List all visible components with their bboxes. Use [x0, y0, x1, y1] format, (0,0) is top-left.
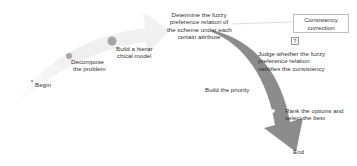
- step-dot-rank: [271, 109, 275, 113]
- step-dot-judge-2: [250, 70, 253, 73]
- label-decompose: Decompose the problem: [71, 58, 106, 73]
- label-end: End: [293, 148, 304, 155]
- label-priority: Build the priority: [205, 86, 249, 93]
- label-fuzzy: Determine the fuzzy preference relation …: [167, 11, 231, 41]
- step-dot-priority: [260, 86, 264, 90]
- label-judge: Judge whether the fuzzy preference relat…: [258, 50, 325, 72]
- decision-marker-icon: ?: [291, 37, 299, 45]
- label-begin: Begin: [35, 81, 51, 88]
- consistency-correction-box: Consistency correction: [293, 14, 349, 33]
- process-diagram: Begin Decompose the problem Build a hier…: [0, 0, 357, 166]
- step-dot-begin: [31, 80, 33, 82]
- connector-line: [232, 22, 292, 24]
- label-rank: Rank the options and select the best: [285, 107, 343, 122]
- step-dot-judge: [242, 58, 245, 61]
- label-hierarchical: Build a hierar chical model: [116, 45, 152, 60]
